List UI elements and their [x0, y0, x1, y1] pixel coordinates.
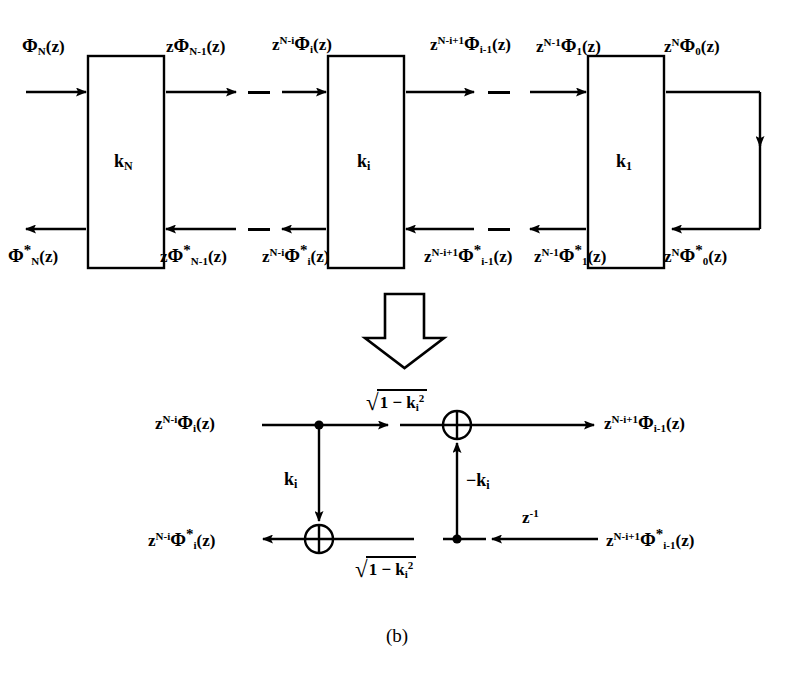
signal-label-forward-out-1: zNΦ0(z) [664, 36, 720, 57]
signal-label-forward-in-i: zN-iΦi(z) [272, 34, 332, 55]
box-label-kN: kN [114, 152, 133, 172]
signal-label-forward-in-1: zN-1Φ1(z) [536, 36, 601, 57]
signal-label-forward-in-N: ΦN(z) [22, 36, 65, 57]
figure-caption: (b) [386, 625, 408, 647]
junction-dot-bottom [452, 534, 461, 543]
signal-label-backward-out-N: Φ*N(z) [8, 243, 58, 267]
signal-label-backward-in-i: zN-i+1Φ*i-1(z) [424, 243, 512, 267]
signal-label-backward-in-N: zΦ*N-1(z) [160, 243, 227, 267]
transform-block-arrow [365, 294, 444, 368]
lattice-label-bottom-right: zN-i+1Φ*i-1(z) [606, 527, 694, 551]
gain-label-up-minus-ki: −ki [466, 471, 490, 491]
lattice-label-top-right: zN-i+1Φi-1(z) [604, 413, 685, 434]
gain-label-bottom-sqrt: √1 − ki2 [355, 556, 416, 583]
adder-top [443, 411, 471, 439]
signal-label-backward-in-1: zNΦ*0(z) [664, 243, 727, 267]
signal-label-backward-out-1: zN-1Φ*1(z) [534, 243, 606, 267]
ellipsis-dash-3 [248, 228, 270, 231]
gain-label-top-sqrt: √1 − ki2 [366, 389, 427, 416]
adder-bottom [305, 525, 333, 553]
box-label-k1: k1 [616, 152, 632, 172]
signal-label-forward-out-i: zN-i+1Φi-1(z) [430, 34, 511, 55]
lattice-label-top-left: zN-iΦi(z) [155, 413, 215, 434]
gain-label-down-ki: ki [284, 470, 297, 490]
signal-label-forward-out-N: zΦN-1(z) [166, 36, 225, 57]
delay-label-z-inverse: z-1 [522, 508, 539, 526]
figure-canvas: ΦN(z) zΦN-1(z) Φ*N(z) zΦ*N-1(z) zN-iΦi(z… [0, 0, 809, 676]
ellipsis-dash-4 [488, 228, 510, 231]
box-label-ki: ki [357, 152, 370, 172]
junction-dot-top [314, 420, 323, 429]
signal-label-backward-out-i: zN-iΦ*i(z) [262, 243, 329, 267]
ellipsis-dash-2 [488, 91, 510, 94]
ellipsis-dash-1 [248, 91, 270, 94]
lattice-label-bottom-left: zN-iΦ*i(z) [148, 527, 215, 551]
